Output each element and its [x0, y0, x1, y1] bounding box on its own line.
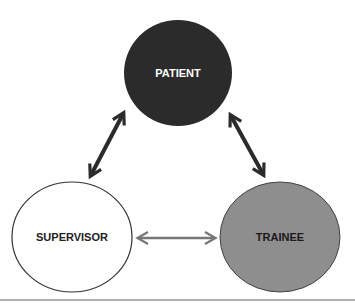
patient-node: PATIENT: [124, 20, 232, 126]
triad-diagram: PATIENT SUPERVISOR TRAINEE: [0, 0, 355, 308]
patient-trainee-arrow: [231, 116, 263, 174]
supervisor-label: SUPERVISOR: [36, 231, 108, 243]
trainee-node: TRAINEE: [220, 182, 340, 292]
patient-supervisor-arrow: [91, 114, 123, 175]
trainee-label: TRAINEE: [256, 231, 304, 243]
supervisor-node: SUPERVISOR: [12, 182, 132, 292]
patient-label: PATIENT: [155, 67, 201, 79]
